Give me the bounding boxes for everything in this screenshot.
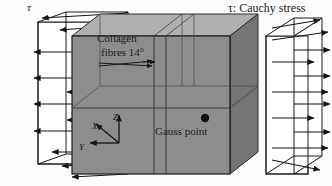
block-front-face: [72, 36, 230, 174]
figure-canvas: τ τ: Cauchy stress Collagen fibres 14° G…: [0, 0, 332, 186]
axis-label-y: Y: [79, 142, 84, 152]
collagen-label-line2: fibres 14°: [101, 47, 144, 58]
diagram-svg: [0, 0, 332, 186]
gauss-point-marker: [201, 114, 209, 122]
cauchy-stress-legend: τ: Cauchy stress: [228, 2, 305, 14]
axis-label-x: X: [92, 121, 98, 131]
axis-label-z: Z: [113, 112, 118, 122]
gauss-point-label: Gauss point: [155, 126, 207, 137]
right-stress-wireframe: [266, 18, 322, 174]
collagen-label-line1: Collagen: [97, 33, 137, 44]
block-right-face: [230, 14, 258, 174]
tau-label-left: τ: [27, 2, 31, 13]
